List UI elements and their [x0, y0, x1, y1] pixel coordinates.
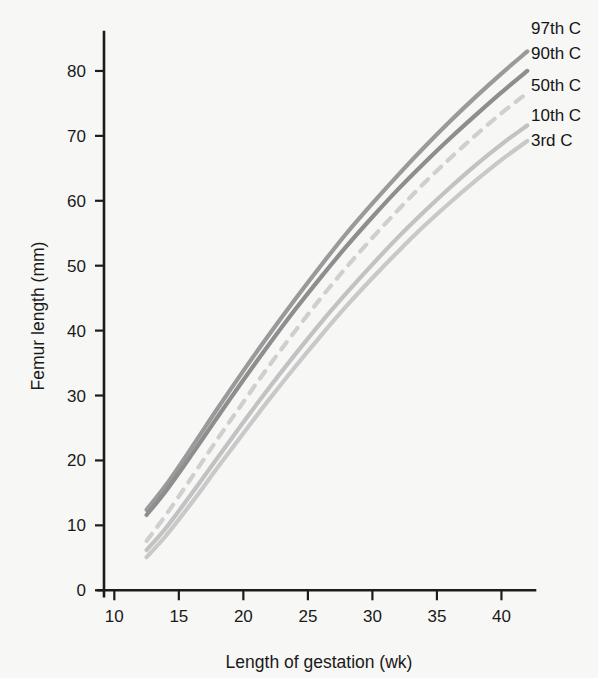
- legend-label-50th-c: 50th C: [531, 76, 581, 95]
- curves-group: [147, 51, 528, 557]
- y-axis-title: Femur length (mm): [28, 242, 48, 391]
- y-tick-label: 40: [67, 322, 86, 341]
- legend-label-3rd-c: 3rd C: [531, 131, 573, 150]
- y-tick-label: 80: [67, 62, 86, 81]
- y-tick-label: 60: [67, 192, 86, 211]
- y-axis-ticks: [95, 71, 104, 590]
- tick-labels-group: 0102030405060708010152025303540: [67, 62, 511, 626]
- x-tick-label: 30: [363, 607, 382, 626]
- legend-label-97th-c: 97th C: [531, 19, 581, 38]
- y-tick-label: 50: [67, 257, 86, 276]
- x-tick-label: 40: [492, 607, 511, 626]
- legend-label-10th-c: 10th C: [531, 106, 581, 125]
- chart-canvas: 0102030405060708010152025303540 Length o…: [0, 0, 598, 678]
- legend-group: 97th C90th C50th C10th C3rd C: [531, 19, 581, 150]
- x-tick-label: 15: [169, 607, 188, 626]
- centile-curve-90th-c: [147, 71, 528, 515]
- y-tick-label: 20: [67, 451, 86, 470]
- centile-curve-3rd-c: [147, 141, 528, 557]
- y-tick-label: 10: [67, 516, 86, 535]
- legend-label-90th-c: 90th C: [531, 44, 581, 63]
- y-tick-label: 30: [67, 387, 86, 406]
- x-tick-label: 35: [427, 607, 446, 626]
- y-tick-label: 70: [67, 127, 86, 146]
- femur-length-growth-chart: 0102030405060708010152025303540 Length o…: [0, 0, 598, 678]
- x-tick-label: 20: [234, 607, 253, 626]
- x-axis-ticks: [114, 590, 501, 600]
- x-axis-title: Length of gestation (wk): [226, 652, 413, 672]
- y-tick-label: 0: [77, 581, 86, 600]
- axes-group: [95, 32, 535, 600]
- x-tick-label: 10: [105, 607, 124, 626]
- x-tick-label: 25: [298, 607, 317, 626]
